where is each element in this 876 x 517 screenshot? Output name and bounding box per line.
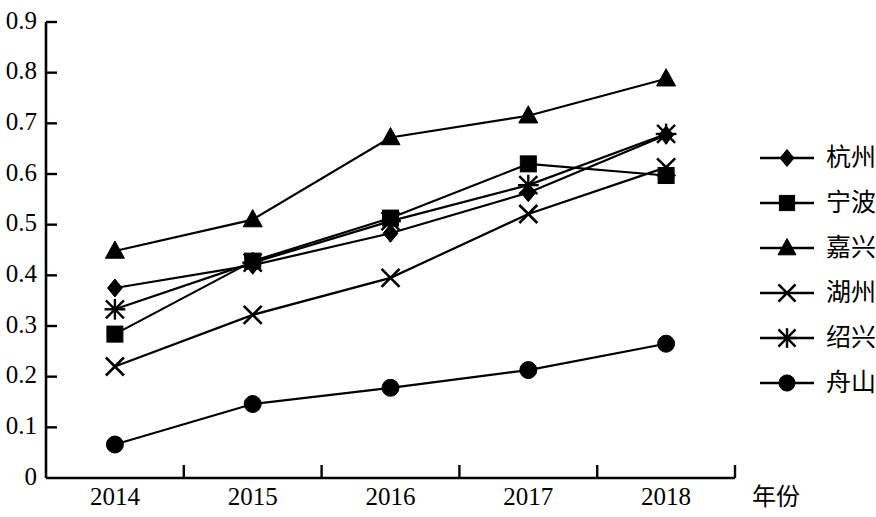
y-tick-label: 0 bbox=[25, 463, 38, 490]
data-point-star bbox=[518, 175, 539, 196]
data-point-circle bbox=[244, 396, 261, 413]
series-line bbox=[115, 167, 666, 366]
data-point-star bbox=[656, 124, 677, 145]
data-point-circle bbox=[106, 436, 123, 453]
y-axis: 00.10.20.30.40.50.60.70.80.9 bbox=[6, 7, 57, 490]
y-tick-label: 0.3 bbox=[6, 311, 37, 338]
data-point-circle bbox=[520, 362, 537, 379]
series-circle bbox=[106, 335, 674, 453]
data-point-x bbox=[244, 306, 262, 324]
data-point-circle bbox=[382, 379, 399, 396]
data-point-diamond bbox=[108, 279, 123, 297]
data-point-triangle bbox=[778, 239, 796, 255]
legend-item-湖州[interactable]: 湖州 bbox=[760, 278, 876, 307]
chart-canvas: 00.10.20.30.40.50.60.70.80.9 20142015201… bbox=[0, 0, 876, 517]
x-tick-label: 2015 bbox=[228, 483, 278, 510]
legend-label: 宁波 bbox=[826, 188, 876, 217]
data-point-x bbox=[106, 358, 124, 376]
data-point-star bbox=[380, 211, 401, 232]
data-point-triangle bbox=[657, 69, 676, 86]
legend-item-绍兴[interactable]: 绍兴 bbox=[760, 323, 876, 352]
data-point-star bbox=[777, 328, 797, 348]
data-point-square bbox=[107, 326, 123, 342]
x-tick-label: 2017 bbox=[503, 483, 553, 510]
data-point-x bbox=[382, 269, 400, 287]
legend-item-嘉兴[interactable]: 嘉兴 bbox=[760, 233, 876, 262]
y-tick-label: 0.4 bbox=[6, 260, 38, 287]
data-point-square bbox=[520, 156, 536, 172]
data-point-circle bbox=[658, 335, 675, 352]
legend-label: 湖州 bbox=[826, 278, 876, 307]
legend-label: 舟山 bbox=[826, 368, 876, 397]
legend-item-杭州[interactable]: 杭州 bbox=[760, 143, 876, 172]
data-point-diamond bbox=[780, 149, 794, 166]
x-axis-title: 年份 bbox=[752, 483, 800, 511]
y-tick-label: 0.6 bbox=[6, 159, 37, 186]
x-tick-label: 2018 bbox=[641, 483, 691, 510]
data-point-triangle bbox=[243, 210, 262, 227]
chart-legend: 杭州宁波嘉兴湖州绍兴舟山 bbox=[760, 143, 876, 397]
data-point-square bbox=[779, 195, 794, 210]
y-tick-label: 0.8 bbox=[6, 57, 37, 84]
series-line bbox=[115, 164, 666, 334]
data-point-star bbox=[105, 299, 126, 320]
x-axis: 20142015201620172018 bbox=[46, 465, 735, 510]
legend-label: 杭州 bbox=[826, 143, 876, 172]
y-tick-label: 0.2 bbox=[6, 361, 37, 388]
legend-item-宁波[interactable]: 宁波 bbox=[760, 188, 876, 217]
data-point-circle bbox=[779, 375, 795, 391]
series-star bbox=[105, 124, 677, 320]
x-tick-label: 2014 bbox=[90, 483, 141, 510]
y-tick-label: 0.5 bbox=[6, 209, 37, 236]
legend-label: 绍兴 bbox=[826, 323, 876, 352]
legend-label: 嘉兴 bbox=[826, 233, 876, 262]
line-chart: 00.10.20.30.40.50.60.70.80.9 20142015201… bbox=[0, 0, 876, 517]
data-series-group bbox=[105, 69, 677, 453]
x-tick-label: 2016 bbox=[366, 483, 416, 510]
y-tick-label: 0.7 bbox=[6, 108, 37, 135]
data-point-star bbox=[242, 252, 263, 273]
y-tick-label: 0.9 bbox=[6, 7, 37, 34]
data-point-x bbox=[519, 205, 537, 223]
legend-item-舟山[interactable]: 舟山 bbox=[760, 368, 876, 397]
series-x bbox=[106, 158, 675, 375]
y-tick-label: 0.1 bbox=[6, 412, 37, 439]
series-square bbox=[107, 156, 674, 342]
